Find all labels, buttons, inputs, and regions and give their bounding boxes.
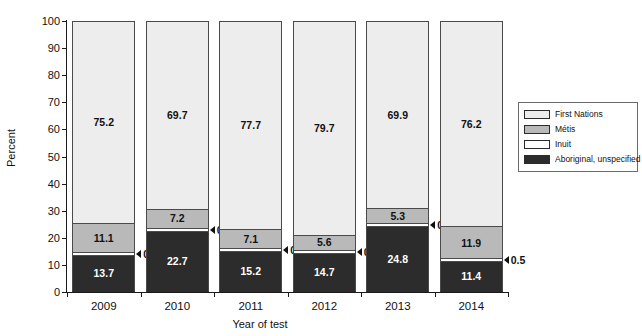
bar-segment-first-nations[interactable]: 77.7 [219,21,282,229]
bar-segment-first-nations[interactable]: 79.7 [293,21,356,235]
y-tick-label: 60 [0,123,67,135]
y-tick-mark [62,184,67,185]
legend-item-aboriginal-unspecified: Aboriginal, unspecified [524,153,633,166]
segment-value-label: 75.2 [94,117,114,128]
bar-2014[interactable]: 76.211.90.50.511.4 [440,21,503,292]
y-tick-mark [62,211,67,212]
bar-segment-unspecified[interactable]: 15.2 [219,251,282,292]
segment-value-label: 13.7 [94,268,114,279]
bar-2011[interactable]: 77.77.10.00.015.2 [219,21,282,292]
x-tick-mark [508,292,509,297]
bar-segment-metis[interactable]: 7.2 [146,209,209,228]
legend-label: Métis [555,125,575,134]
segment-value-label: 15.2 [241,266,261,277]
legend-label: Inuit [555,140,571,149]
bar-segment-first-nations[interactable]: 69.9 [366,21,429,208]
bar-segment-unspecified[interactable]: 14.7 [293,253,356,292]
bar-segment-first-nations[interactable]: 76.2 [440,21,503,226]
y-tick-mark [62,102,67,103]
left-arrow-icon [210,226,215,234]
bar-segment-unspecified[interactable]: 24.8 [366,226,429,292]
legend-label: Aboriginal, unspecified [555,155,641,164]
y-tick-mark [62,265,67,266]
x-tick-label-2012: 2012 [293,300,356,312]
bar-segment-first-nations[interactable]: 69.7 [146,21,209,209]
segment-value-label: 7.1 [243,234,258,245]
y-tick-label: 10 [0,259,67,271]
segment-value-label: 79.7 [314,123,334,134]
bar-segment-first-nations[interactable]: 75.2 [72,21,135,223]
chart-legend: First Nations Métis Inuit Aboriginal, un… [518,102,638,172]
bar-segment-unspecified[interactable]: 22.7 [146,231,209,292]
bar-segment-unspecified[interactable]: 13.7 [72,255,135,292]
y-tick-label: 50 [0,151,67,163]
segment-value-label: 5.6 [317,237,332,248]
legend-item-metis: Métis [524,123,633,136]
segment-value-label: 69.7 [167,110,187,121]
segment-value-label: 14.7 [314,267,334,278]
y-tick-label: 40 [0,178,67,190]
segment-value-label: 11.9 [461,238,481,249]
x-tick-mark [288,292,289,297]
segment-value-label: 11.1 [94,233,114,244]
y-tick-mark [62,157,67,158]
left-arrow-icon [136,250,141,258]
bar-2012[interactable]: 79.75.60.00.014.7 [293,21,356,292]
callout-value: 0.5 [511,254,526,266]
segment-value-label: 24.8 [388,254,408,265]
x-tick-label-2014: 2014 [440,300,503,312]
bar-segment-metis[interactable]: 7.1 [219,229,282,248]
y-tick-mark [62,238,67,239]
legend-swatch-icon [524,155,550,164]
segment-value-label: 11.4 [461,271,481,282]
x-tick-label-2009: 2009 [72,300,135,312]
segment-value-label: 22.7 [167,256,187,267]
callout-annotation: 0.5 [504,254,526,266]
plot-area: 75.211.10.00.013.769.77.20.40.422.777.77… [67,21,508,292]
y-tick-label: 30 [0,205,67,217]
y-tick-mark [62,48,67,49]
bar-segment-metis[interactable]: 5.3 [366,208,429,222]
y-tick-label: 100 [0,15,67,27]
y-tick-mark [62,21,67,22]
y-tick-mark [62,75,67,76]
legend-item-inuit: Inuit [524,138,633,151]
segment-value-label: 7.2 [170,213,185,224]
y-tick-label: 70 [0,96,67,108]
legend-swatch-icon [524,140,550,149]
y-tick-label: 80 [0,69,67,81]
left-arrow-icon [357,248,362,256]
x-tick-label-2011: 2011 [219,300,282,312]
chart-container: Percent 75.211.10.00.013.769.77.20.40.42… [0,0,642,336]
y-tick-label: 20 [0,232,67,244]
left-arrow-icon [430,221,435,229]
x-tick-mark [435,292,436,297]
x-tick-mark [214,292,215,297]
x-tick-label-2010: 2010 [146,300,209,312]
left-arrow-icon [504,256,509,264]
segment-value-label: 76.2 [461,119,481,130]
segment-value-label: 5.3 [390,211,405,222]
bar-segment-metis[interactable]: 11.1 [72,223,135,253]
bar-2013[interactable]: 69.95.30.00.024.8 [366,21,429,292]
legend-item-first-nations: First Nations [524,108,633,121]
x-tick-mark [361,292,362,297]
legend-label: First Nations [555,110,603,119]
segment-value-label: 77.7 [241,120,261,131]
legend-swatch-icon [524,110,550,119]
y-tick-label: 0 [0,286,67,298]
bar-segment-unspecified[interactable]: 11.4 [440,261,503,292]
x-tick-mark [67,292,68,297]
bar-segment-metis[interactable]: 11.9 [440,226,503,258]
x-tick-label-2013: 2013 [366,300,429,312]
x-tick-mark [141,292,142,297]
bar-segment-metis[interactable]: 5.6 [293,235,356,250]
y-tick-mark [62,129,67,130]
y-tick-label: 90 [0,42,67,54]
left-arrow-icon [283,246,288,254]
legend-swatch-icon [524,125,550,134]
x-axis-title: Year of test [0,318,520,330]
bar-2009[interactable]: 75.211.10.00.013.7 [72,21,135,292]
segment-value-label: 69.9 [388,110,408,121]
bar-2010[interactable]: 69.77.20.40.422.7 [146,21,209,292]
